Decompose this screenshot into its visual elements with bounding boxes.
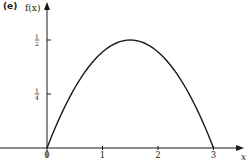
curve-f-of-x (47, 40, 214, 148)
function-plot: xf(x) 01231412 (0, 0, 247, 160)
ticks: 01231412 (35, 33, 217, 161)
y-axis-arrow-icon (44, 2, 50, 10)
svg-text:4: 4 (35, 94, 39, 101)
svg-text:1: 1 (35, 87, 39, 94)
x-tick-label: 0 (44, 150, 49, 160)
svg-text:1: 1 (35, 33, 39, 40)
svg-text:2: 2 (35, 40, 39, 47)
y-tick-label: 12 (35, 33, 40, 47)
x-tick-label: 1 (100, 150, 105, 160)
y-tick-label: 14 (35, 87, 40, 101)
x-tick-label: 2 (155, 150, 160, 160)
x-axis-arrow-icon (236, 145, 244, 151)
x-axis-label: x (241, 152, 246, 160)
y-axis-label: f(x) (25, 3, 40, 13)
x-tick-label: 3 (211, 150, 216, 160)
